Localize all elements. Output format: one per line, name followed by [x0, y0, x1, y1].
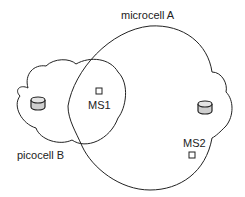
ms1-terminal-icon — [96, 88, 102, 94]
picocell-b-label: picocell B — [17, 150, 64, 161]
cell-coverage-diagram: microcell A picocell B MS1 MS2 — [0, 0, 245, 197]
base-station-icon-microcell — [198, 101, 212, 114]
microcell-a-label: microcell A — [121, 10, 174, 21]
diagram-canvas — [0, 0, 245, 197]
ms2-label: MS2 — [183, 138, 206, 149]
ms2-terminal-icon — [189, 152, 195, 158]
base-station-icon-picocell — [31, 97, 45, 110]
ms1-label: MS1 — [88, 100, 111, 111]
